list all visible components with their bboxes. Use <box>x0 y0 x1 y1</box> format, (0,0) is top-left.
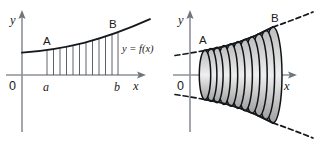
left-origin-label: 0 <box>9 79 16 93</box>
right-origin-label: 0 <box>177 79 184 93</box>
left-tick-label-a: a <box>43 80 49 94</box>
left-y-axis <box>18 10 25 132</box>
right-point-label-a: A <box>199 34 207 46</box>
right-panel-solid-of-revolution: y x 0 A B <box>161 0 322 146</box>
calculus-figure: y x 0 a b A B y = f(x) <box>0 0 322 146</box>
left-y-axis-label: y <box>8 13 16 27</box>
right-y-axis-label: y <box>176 13 184 27</box>
left-curve-equation-label: y = f(x) <box>121 43 154 55</box>
left-riemann-strips <box>47 32 118 75</box>
right-x-axis-label: x <box>283 79 290 93</box>
left-panel-region-under-curve: y x 0 a b A B y = f(x) <box>0 0 161 146</box>
left-point-label-a: A <box>43 35 51 47</box>
left-x-axis <box>6 71 146 78</box>
disk-slice <box>199 50 210 100</box>
left-x-axis-label: x <box>132 79 139 93</box>
right-y-axis <box>186 10 193 132</box>
left-tick-label-b: b <box>114 80 120 94</box>
right-point-label-b: B <box>271 12 279 24</box>
left-point-label-b: B <box>109 18 117 30</box>
